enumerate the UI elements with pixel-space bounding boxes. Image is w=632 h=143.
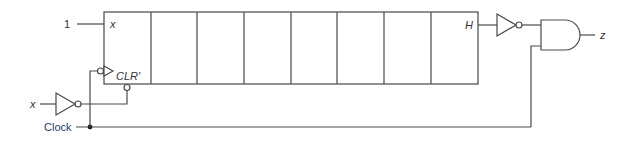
x-inverter-icon [56, 93, 75, 115]
shift-register [104, 12, 478, 84]
and-gate-icon [541, 20, 580, 50]
clock-to-register-wire [90, 71, 98, 127]
register-output-label: H [465, 19, 473, 31]
clear-wire [81, 91, 127, 105]
clock-to-and-wire [531, 46, 541, 127]
serial-input-label: x [109, 18, 116, 30]
clock-inversion-bubble-icon [98, 68, 104, 74]
constant-one-label: 1 [64, 18, 70, 30]
x-input-label: x [29, 98, 36, 110]
h-inverter-icon [497, 14, 516, 36]
x-inverter-bubble-icon [75, 101, 81, 107]
z-output-label: z [599, 29, 606, 41]
h-inverter-bubble-icon [516, 22, 522, 28]
shift-register-diagram: 1 x CLR' H x Clock z [0, 0, 632, 143]
clock-label: Clock [44, 121, 72, 133]
clear-inversion-bubble-icon [124, 85, 130, 91]
clear-label: CLR' [116, 70, 141, 82]
